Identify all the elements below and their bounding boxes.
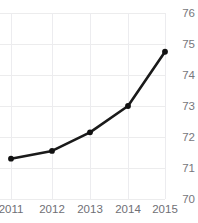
x-tick-label: 2013 (77, 203, 103, 215)
y-axis: 76757473727170 (168, 0, 198, 223)
y-tick-label: 76 (182, 7, 195, 19)
x-tick-label: 2011 (0, 203, 23, 215)
data-point (125, 103, 131, 109)
y-tick-label: 72 (182, 131, 195, 143)
series-line (11, 52, 165, 159)
data-point (49, 148, 55, 154)
series-freedom-trend (0, 13, 176, 203)
series-markers (8, 49, 168, 162)
y-tick-label: 71 (182, 162, 195, 174)
x-tick-label: 2012 (39, 203, 65, 215)
x-tick-label: 2014 (115, 203, 141, 215)
x-axis: 20112012201320142015 (0, 203, 198, 223)
data-point (87, 129, 93, 135)
y-tick-label: 75 (182, 38, 195, 50)
y-tick-label: 73 (182, 100, 195, 112)
x-tick-label: 2015 (152, 203, 178, 215)
data-point (8, 156, 14, 162)
plot-area (11, 13, 165, 199)
y-tick-label: 74 (182, 69, 195, 81)
line-chart: Freedom Trend 76757473727170 20112012201… (0, 0, 198, 223)
